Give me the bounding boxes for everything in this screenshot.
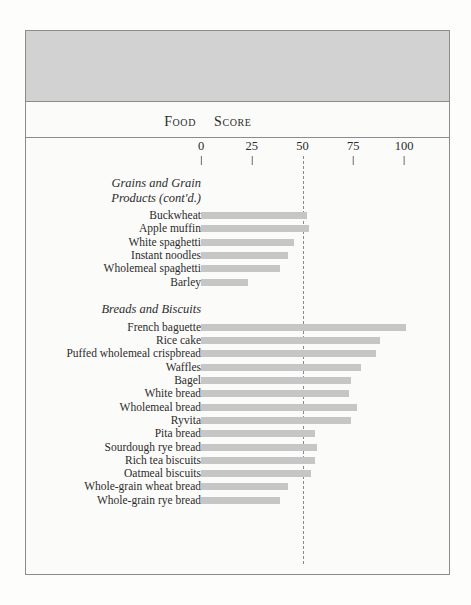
axis-tick-label-100: 100 (395, 138, 414, 154)
bar-row-bar (201, 497, 280, 504)
bar-row: Apple muffin (26, 222, 449, 235)
bar-row-bar (201, 390, 349, 397)
axis-tick-label-25: 25 (246, 138, 259, 154)
bar-row: Whole-grain rye bread (26, 494, 449, 507)
axis-tick-mark-75 (353, 156, 354, 165)
bar-rows-container: Grains and GrainProducts (cont'd.)Buckwh… (26, 176, 449, 574)
axis-tick-0: 0 (198, 138, 204, 165)
bar-row-bar (201, 324, 406, 331)
bar-row: Bagel (26, 374, 449, 387)
bar-row: Ryvita (26, 414, 449, 427)
bar-row: Barley (26, 276, 449, 289)
bar-row-label: Instant noodles (26, 249, 201, 262)
bar-row-bar (201, 364, 361, 371)
bar-row-label: Rice cake (26, 334, 201, 347)
bar-row-bar (201, 225, 309, 232)
bar-row-label: Buckwheat (26, 209, 201, 222)
bar-row: White spaghetti (26, 236, 449, 249)
bar-row-bar (201, 239, 294, 246)
column-header-band: Food Score (26, 102, 449, 138)
bar-row: Pita bread (26, 427, 449, 440)
bar-row: French baguette (26, 321, 449, 334)
bar-row: Buckwheat (26, 209, 449, 222)
axis-tick-75: 75 (347, 138, 360, 165)
bar-row: Puffed wholemeal crispbread (26, 347, 449, 360)
axis-tick-mark-100 (404, 156, 405, 165)
bar-row-label: Wholemeal bread (26, 401, 201, 414)
bar-row-label: Whole-grain wheat bread (26, 480, 201, 493)
bar-row-label: Ryvita (26, 414, 201, 427)
bar-row-label: Rich tea biscuits (26, 454, 201, 467)
bar-row-label: White spaghetti (26, 236, 201, 249)
group-title-line: Breads and Biscuits (26, 302, 201, 317)
bar-row-label: Barley (26, 276, 201, 289)
bar-row-label: White bread (26, 387, 201, 400)
axis-tick-25: 25 (246, 138, 259, 165)
bar-row-label: Bagel (26, 374, 201, 387)
bar-row-bar (201, 417, 351, 424)
bar-row-bar (201, 377, 351, 384)
bar-row: Instant noodles (26, 249, 449, 262)
bar-row-label: Wholemeal spaghetti (26, 262, 201, 275)
page-root: Food Score 0255075100 Grains and GrainPr… (0, 0, 471, 605)
x-axis: 0255075100 (26, 138, 449, 176)
bar-row-label: Whole-grain rye bread (26, 494, 201, 507)
bar-row-bar (201, 265, 280, 272)
bar-row: Sourdough rye bread (26, 441, 449, 454)
bar-row-bar (201, 252, 288, 259)
bar-row: Oatmeal biscuits (26, 467, 449, 480)
plot-area: 0255075100 Grains and GrainProducts (con… (26, 138, 449, 574)
axis-tick-mark-25 (251, 156, 252, 165)
bar-row-bar (201, 404, 357, 411)
group-title: Grains and GrainProducts (cont'd.) (26, 176, 201, 205)
bar-row-label: Pita bread (26, 427, 201, 440)
bar-row-bar (201, 444, 317, 451)
axis-tick-label-50: 50 (296, 138, 309, 154)
bar-row-label: Puffed wholemeal crispbread (26, 347, 201, 360)
bar-row-label: Waffles (26, 361, 201, 374)
bar-row: Rich tea biscuits (26, 454, 449, 467)
group-title-line: Grains and Grain (26, 176, 201, 191)
bar-row-bar (201, 337, 380, 344)
bar-row-label: Sourdough rye bread (26, 441, 201, 454)
bar-row-label: Oatmeal biscuits (26, 467, 201, 480)
axis-tick-mark-0 (201, 156, 202, 165)
column-header-food: Food (26, 114, 196, 130)
group-title-line: Products (cont'd.) (26, 191, 201, 206)
bar-row-bar (201, 279, 248, 286)
axis-tick-label-0: 0 (198, 138, 204, 154)
axis-tick-label-75: 75 (347, 138, 360, 154)
bar-row-bar (201, 430, 315, 437)
group-title: Breads and Biscuits (26, 302, 201, 317)
bar-row-bar (201, 457, 315, 464)
bar-row: Rice cake (26, 334, 449, 347)
column-header-score: Score (214, 114, 251, 130)
bar-row-bar (201, 470, 311, 477)
bar-row-bar (201, 212, 307, 219)
bar-row: White bread (26, 387, 449, 400)
bar-row: Waffles (26, 361, 449, 374)
masthead-block (26, 31, 449, 102)
bar-row: Whole-grain wheat bread (26, 480, 449, 493)
bar-row-bar (201, 350, 376, 357)
bar-row: Wholemeal bread (26, 401, 449, 414)
bar-row-bar (201, 483, 288, 490)
bar-row: Wholemeal spaghetti (26, 262, 449, 275)
bar-row-label: French baguette (26, 321, 201, 334)
chart-frame: Food Score 0255075100 Grains and GrainPr… (25, 30, 450, 575)
bar-row-label: Apple muffin (26, 222, 201, 235)
axis-tick-100: 100 (395, 138, 414, 165)
